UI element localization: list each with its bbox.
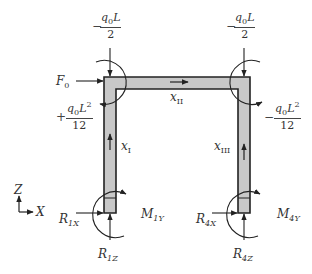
global-axes-icon: [19, 196, 33, 212]
R1Z-label: R1Z: [98, 248, 118, 263]
left-moment-label: q0L2 12: [66, 101, 93, 132]
axis-z-label: Z: [14, 184, 22, 196]
F0-label: F0: [56, 75, 69, 90]
x2-label: xII: [170, 91, 183, 106]
support-1-reactions: [76, 192, 126, 240]
support-4-reactions: [212, 192, 260, 240]
right-moment-sign: −: [264, 110, 274, 124]
right-moment-label: q0L2 12: [274, 101, 301, 132]
R4X-label: R4X: [196, 213, 216, 228]
left-moment-sign: +: [56, 110, 66, 124]
x1-label: xI: [121, 140, 131, 155]
top-right-force-label: q0L 2: [234, 12, 255, 41]
M1Y-label: M1Y: [141, 208, 164, 223]
axis-x-label: X: [36, 206, 45, 218]
M4Y-label: M4Y: [277, 208, 300, 223]
R1X-label: R1X: [59, 213, 79, 228]
x3-label: xIII: [214, 140, 230, 155]
R4Z-label: R4Z: [233, 248, 253, 263]
top-left-force-label: q0L 2: [100, 12, 121, 41]
frame-diagram: [0, 0, 312, 274]
